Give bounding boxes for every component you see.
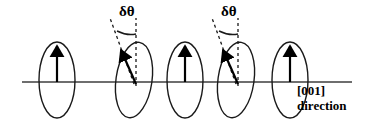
- axis-direction-label-line1: [001]: [297, 84, 383, 99]
- site-4-angle-arc: [219, 31, 238, 35]
- site-2: [110, 18, 157, 120]
- site-2-spin-arrow: [121, 50, 136, 84]
- site-4-spin-arrow: [223, 50, 238, 84]
- spin-chain-figure: δθ δθ [001] direction: [0, 0, 389, 130]
- site-3: [167, 42, 203, 118]
- angle-label-1: δθ: [119, 3, 135, 19]
- site-1: [39, 42, 75, 118]
- angle-label-2: δθ: [221, 3, 237, 19]
- site-2-angle-arc: [117, 31, 136, 35]
- axis-direction-label: [001] direction: [297, 84, 383, 113]
- site-4: [212, 18, 259, 120]
- axis-direction-label-line2: direction: [297, 99, 383, 114]
